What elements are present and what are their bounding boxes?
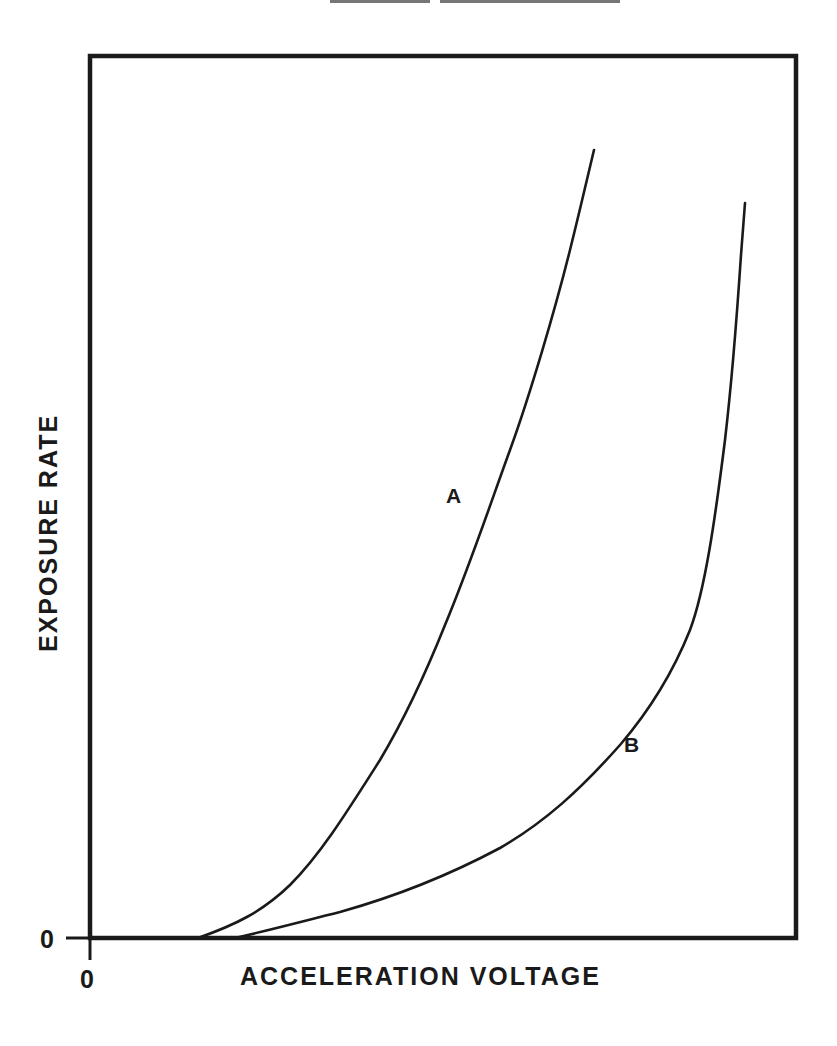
curve-a-label: A	[446, 484, 461, 507]
x-axis-title: ACCELERATION VOLTAGE	[240, 962, 601, 990]
exposure-rate-chart: A B 0 0 ACCELERATION VOLTAGE EXPOSURE RA…	[0, 0, 837, 1046]
curve-b	[235, 203, 745, 938]
x-origin-label: 0	[80, 965, 94, 993]
cropped-header	[330, 0, 620, 3]
curve-a	[198, 150, 594, 938]
plot-frame	[90, 56, 796, 938]
y-origin-label: 0	[40, 925, 54, 953]
y-axis-title: EXPOSURE RATE	[34, 414, 62, 652]
curve-b-label: B	[624, 733, 639, 756]
